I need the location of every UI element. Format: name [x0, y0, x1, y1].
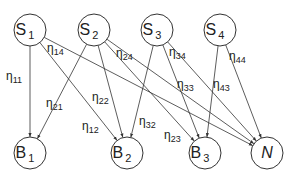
edge-label-eta-32: η32 — [139, 114, 156, 130]
bipartite-diagram: η11η12η14η21η22η23η24η32η33η34η43η44 S1S… — [0, 0, 293, 176]
edge-label-eta-21: η21 — [46, 96, 63, 112]
source-node-s4: S4 — [204, 14, 236, 46]
edge-labels-layer: η11η12η14η21η22η23η24η32η33η34η43η44 — [6, 41, 246, 144]
source-node-s1: S1 — [14, 14, 46, 46]
edge-label-eta-12: η12 — [82, 119, 99, 135]
edge-label-eta-44: η44 — [229, 49, 246, 65]
edge-label-eta-34: η34 — [169, 45, 186, 61]
edge-label-eta-22: η22 — [92, 90, 109, 106]
target-node-b3: B3 — [189, 137, 221, 169]
edge-label-eta-24: η24 — [116, 46, 133, 62]
edge-s2-b1 — [37, 44, 86, 139]
edge-label-eta-33: η33 — [177, 77, 194, 93]
edge-label-eta-43: η43 — [213, 77, 230, 93]
target-node-b2: B2 — [111, 137, 143, 169]
edge-s4-b3 — [207, 46, 218, 137]
target-node-b1: B1 — [14, 137, 46, 169]
source-node-s3: S3 — [141, 14, 173, 46]
edge-s1-b2 — [40, 43, 117, 141]
target-node-n: N — [251, 137, 283, 169]
source-node-s2: S2 — [78, 14, 110, 46]
edge-label-eta-23: η23 — [164, 128, 181, 144]
node-label: N — [261, 144, 273, 161]
edge-label-eta-11: η11 — [6, 69, 22, 85]
